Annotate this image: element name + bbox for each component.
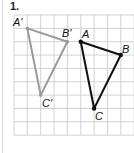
- label-b: B: [122, 43, 129, 55]
- coordinate-grid: [14, 15, 134, 135]
- label-c-prime: C': [42, 97, 53, 109]
- vertex-a: [79, 40, 83, 44]
- label-b-prime: B': [62, 27, 72, 39]
- vertex-b-prime: [66, 40, 70, 44]
- translation-diagram: A' B' C' A B C: [0, 0, 134, 153]
- label-c: C: [95, 110, 103, 122]
- label-a-prime: A': [12, 16, 23, 28]
- vertex-a-prime: [26, 27, 30, 31]
- label-a: A: [81, 28, 89, 40]
